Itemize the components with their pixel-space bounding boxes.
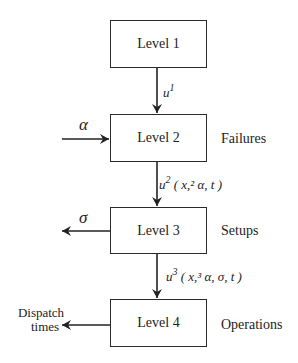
level-1-box: Level 1	[110, 20, 207, 68]
u1-annotation: u1	[163, 82, 175, 101]
dispatch-times-label: Dispatch times	[16, 306, 66, 334]
level-4-label: Level 4	[137, 315, 179, 331]
u3-annotation: u3 ( x,³ α, σ, t )	[166, 266, 242, 285]
level-2-box: Level 2	[110, 114, 207, 162]
level-1-label: Level 1	[137, 36, 179, 52]
setups-label: Setups	[221, 223, 258, 239]
u2-annotation: u2 ( x,² α, t )	[159, 174, 222, 193]
level-3-label: Level 3	[137, 223, 179, 239]
failures-label: Failures	[221, 131, 266, 147]
alpha-symbol: α	[79, 115, 88, 135]
level-4-box: Level 4	[110, 299, 207, 347]
level-2-label: Level 2	[137, 130, 179, 146]
sigma-symbol: σ	[79, 208, 87, 228]
level-3-box: Level 3	[110, 207, 207, 254]
operations-label: Operations	[221, 317, 282, 333]
